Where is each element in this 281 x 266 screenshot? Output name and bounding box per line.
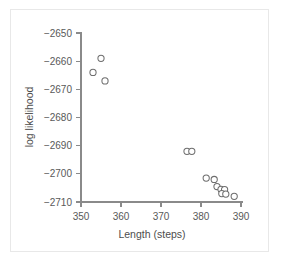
data-point (203, 175, 209, 181)
y-tick-label: −2670 (44, 84, 73, 95)
y-tick-label: −2700 (44, 168, 73, 179)
data-markers (90, 55, 237, 199)
data-point (189, 148, 195, 154)
x-tick-label: 390 (233, 211, 250, 222)
y-tick-label: −2660 (44, 56, 73, 67)
data-point (223, 191, 229, 197)
x-tick-label: 380 (193, 211, 210, 222)
y-tick-label: −2650 (44, 28, 73, 39)
x-tick-label: 350 (73, 211, 90, 222)
x-tick-label: 360 (113, 211, 130, 222)
data-point (231, 193, 237, 199)
data-point (90, 69, 96, 75)
data-point (102, 78, 108, 84)
y-tick-label: −2690 (44, 140, 73, 151)
y-axis-title: log likelihood (23, 86, 35, 147)
x-axis-ticks: 350360370380390 (73, 202, 250, 222)
y-tick-label: −2680 (44, 112, 73, 123)
data-point (211, 176, 217, 182)
x-axis-title: Length (steps) (118, 228, 185, 240)
scatter-plot: −2650−2660−2670−2680−2690−2700−2710 3503… (0, 0, 281, 266)
x-tick-label: 370 (153, 211, 170, 222)
data-point (98, 55, 104, 61)
y-tick-label: −2710 (44, 197, 73, 208)
y-axis-ticks: −2650−2660−2670−2680−2690−2700−2710 (44, 28, 81, 208)
figure: −2650−2660−2670−2680−2690−2700−2710 3503… (0, 0, 281, 266)
